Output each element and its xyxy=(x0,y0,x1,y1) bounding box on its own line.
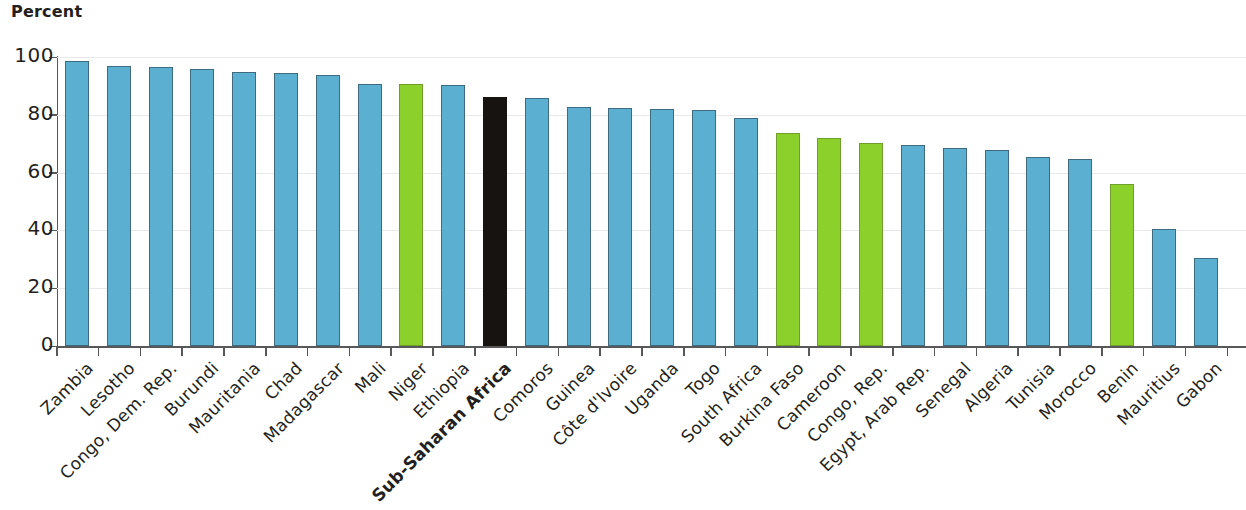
bar xyxy=(901,145,925,346)
x-tick-mark xyxy=(934,347,936,356)
x-axis-line xyxy=(57,346,1246,348)
bar xyxy=(608,108,632,346)
bar xyxy=(692,110,716,346)
bar xyxy=(441,85,465,346)
x-tick-mark xyxy=(892,347,894,356)
bar xyxy=(1026,157,1050,346)
x-tick-mark xyxy=(181,347,183,356)
x-tick-mark xyxy=(1059,347,1061,356)
bar xyxy=(567,107,591,346)
x-tick-mark xyxy=(140,347,142,356)
x-tick-mark xyxy=(307,347,309,356)
bar xyxy=(65,61,89,346)
bar xyxy=(358,84,382,346)
bar xyxy=(985,150,1009,346)
bar xyxy=(859,143,883,346)
y-tick-label: 100 xyxy=(14,43,54,67)
x-tick-mark xyxy=(349,347,351,356)
y-tick-label: 0 xyxy=(41,332,54,356)
x-tick-mark xyxy=(976,347,978,356)
y-tick-label: 40 xyxy=(28,216,54,240)
x-axis-label: Gabon xyxy=(1172,358,1226,412)
x-tick-mark xyxy=(1143,347,1145,356)
x-tick-mark xyxy=(56,347,58,356)
bar xyxy=(817,138,841,346)
x-tick-mark xyxy=(1185,347,1187,356)
y-tick-label: 20 xyxy=(28,274,54,298)
x-tick-mark xyxy=(599,347,601,356)
x-tick-mark xyxy=(390,347,392,356)
gridline xyxy=(57,57,1246,58)
x-tick-mark xyxy=(641,347,643,356)
bar xyxy=(525,98,549,346)
x-tick-mark xyxy=(516,347,518,356)
bar xyxy=(1194,258,1218,346)
x-tick-mark xyxy=(265,347,267,356)
bar xyxy=(149,67,173,346)
y-tick-label: 80 xyxy=(28,101,54,125)
x-tick-mark xyxy=(1017,347,1019,356)
bar xyxy=(650,109,674,346)
x-tick-mark xyxy=(474,347,476,356)
bar xyxy=(107,66,131,346)
bar xyxy=(316,75,340,346)
bar xyxy=(776,133,800,346)
x-tick-mark xyxy=(432,347,434,356)
x-tick-mark xyxy=(808,347,810,356)
bar xyxy=(1068,159,1092,346)
bar-chart: Percent 020406080100 ZambiaLesothoCongo,… xyxy=(0,0,1246,510)
y-axis-title: Percent xyxy=(11,2,82,21)
x-tick-mark xyxy=(725,347,727,356)
bar xyxy=(190,69,214,346)
x-tick-mark xyxy=(98,347,100,356)
x-tick-mark xyxy=(767,347,769,356)
x-tick-mark xyxy=(850,347,852,356)
bar xyxy=(943,148,967,346)
bar xyxy=(274,73,298,346)
bar xyxy=(232,72,256,346)
x-tick-mark xyxy=(1227,347,1229,356)
bar xyxy=(1110,184,1134,346)
x-tick-mark xyxy=(558,347,560,356)
x-tick-mark xyxy=(1101,347,1103,356)
bar xyxy=(399,84,423,346)
x-tick-mark xyxy=(683,347,685,356)
bar xyxy=(483,97,507,346)
bar xyxy=(1152,229,1176,346)
x-tick-mark xyxy=(223,347,225,356)
bar xyxy=(734,118,758,346)
y-tick-label: 60 xyxy=(28,159,54,183)
